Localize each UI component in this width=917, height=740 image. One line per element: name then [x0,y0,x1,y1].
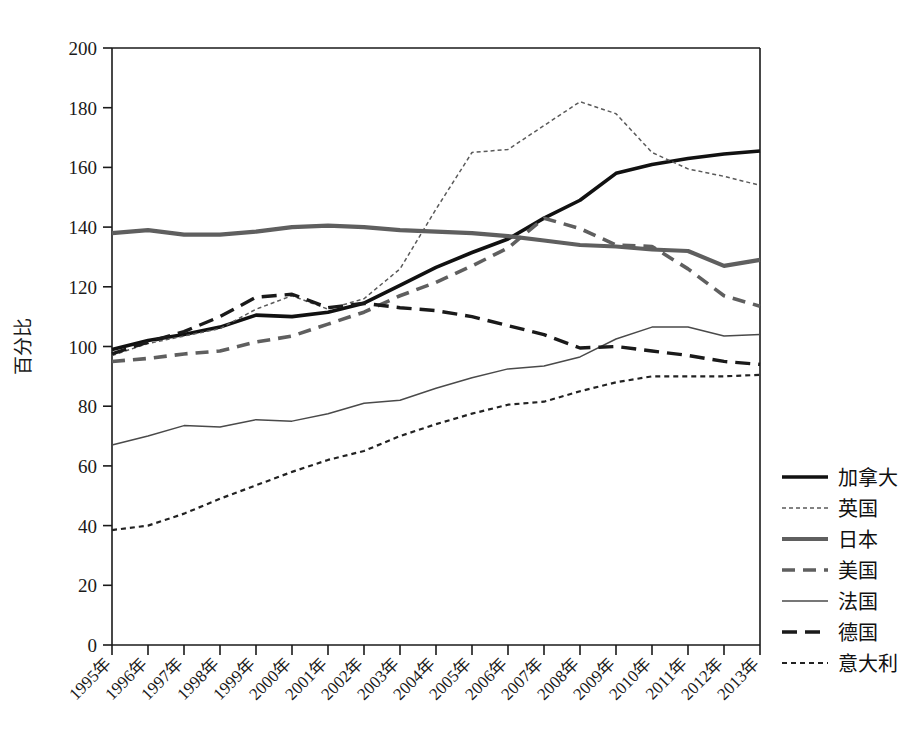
y-tick-label: 40 [78,516,97,537]
y-tick-labels: 020406080100120140160180200 [69,38,113,656]
y-tick-label: 0 [88,635,98,656]
y-tick-label: 100 [69,337,98,358]
chart-canvas: 020406080100120140160180200 1995年1996年19… [0,0,917,740]
legend-label-0[interactable]: 加拿大 [838,466,898,489]
series-line-4 [112,327,760,445]
series-line-6 [112,375,760,530]
legend-label-6[interactable]: 意大利 [838,653,898,675]
legend-label-4[interactable]: 法国 [838,591,878,613]
y-tick-label: 20 [78,575,97,596]
series-line-3 [112,218,760,361]
x-tick-labels: 1995年1996年1997年1998年1999年2000年2001年2002年… [65,645,762,704]
y-tick-label: 200 [69,38,98,59]
legend-label-2[interactable]: 日本 [838,529,878,551]
legend-label-1[interactable]: 英国 [838,498,878,520]
y-tick-label: 60 [78,456,97,477]
y-tick-label: 120 [69,277,98,298]
y-tick-label: 180 [69,98,98,119]
legend-label-3[interactable]: 美国 [838,560,878,582]
data-series-group [112,102,760,530]
chart-axes [112,48,760,645]
y-tick-label: 160 [69,157,98,178]
y-axis-title-group: 百分比 [13,318,34,375]
line-chart: 020406080100120140160180200 1995年1996年19… [0,0,917,740]
y-tick-label: 140 [69,217,98,238]
series-line-1 [112,102,760,356]
legend-label-5[interactable]: 德国 [838,622,878,644]
legend: 加拿大英国日本美国法国德国意大利 [782,466,898,675]
y-axis-title: 百分比 [13,318,34,375]
y-tick-label: 80 [78,396,97,417]
series-line-2 [112,226,760,266]
